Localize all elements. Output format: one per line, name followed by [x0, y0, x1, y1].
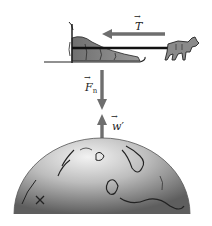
- tension-label: T: [135, 21, 142, 32]
- tension-symbol: T: [135, 21, 142, 32]
- tension-arrow: [102, 29, 165, 39]
- earth-globe: [14, 138, 190, 214]
- normal-force-arrow: [97, 70, 107, 110]
- normal-force-subscript: n: [93, 87, 98, 95]
- diagram-canvas: T Fn w′: [0, 0, 212, 226]
- normal-force-label: Fn: [85, 82, 97, 95]
- normal-force-symbol: F: [85, 82, 93, 93]
- dog-icon: [165, 37, 199, 60]
- sled: [44, 22, 145, 63]
- weight-reaction-arrow: [97, 114, 107, 141]
- weight-reaction-symbol: w: [112, 121, 121, 132]
- weight-reaction-prime: ′: [121, 120, 124, 133]
- diagram-graphics: [0, 0, 212, 226]
- weight-reaction-label: w′: [112, 121, 124, 132]
